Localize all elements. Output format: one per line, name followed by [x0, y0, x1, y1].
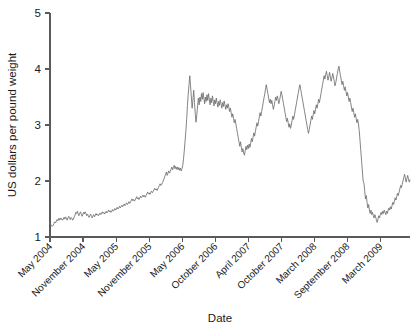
axes: [50, 13, 410, 237]
y-axis-ticks: 12345: [35, 7, 50, 243]
y-tick-label: 5: [35, 7, 41, 19]
y-tick-label: 3: [35, 119, 41, 131]
chart-container: 12345 May 2004November 2004May 2005Novem…: [0, 0, 416, 335]
x-axis-title: Date: [208, 312, 232, 324]
x-axis-ticks: May 2004November 2004May 2005November 20…: [16, 237, 385, 301]
y-axis-title: US dollars per pound weight: [6, 52, 18, 197]
data-series-line: [50, 66, 410, 226]
y-tick-label: 2: [35, 175, 41, 187]
x-tick-label: September 2008: [292, 240, 352, 300]
y-tick-label: 1: [35, 231, 41, 243]
data-series-group: [50, 66, 410, 226]
y-tick-label: 4: [35, 63, 42, 75]
line-chart: 12345 May 2004November 2004May 2005Novem…: [0, 0, 416, 335]
